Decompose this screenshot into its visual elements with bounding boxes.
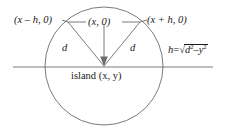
- label-distance-right: d: [130, 43, 135, 54]
- vertical-arrowhead-icon: [100, 57, 108, 67]
- label-center-top: (x, 0): [88, 17, 110, 28]
- formula-radicand: d2–y2: [184, 44, 208, 56]
- formula-h-equals-sqrt: h=√d2–y2: [168, 44, 208, 56]
- diagram-canvas: (x – h, 0) (x, 0) (x + h, 0) d d island …: [0, 0, 227, 130]
- triangle-leg-left: [68, 22, 104, 66]
- label-island-point: island (x, y): [71, 71, 121, 82]
- label-distance-left: d: [62, 43, 67, 54]
- label-left-vertex: (x – h, 0): [14, 15, 52, 26]
- formula-exponent-y: 2: [203, 43, 206, 50]
- label-right-vertex: (x + h, 0): [147, 15, 187, 26]
